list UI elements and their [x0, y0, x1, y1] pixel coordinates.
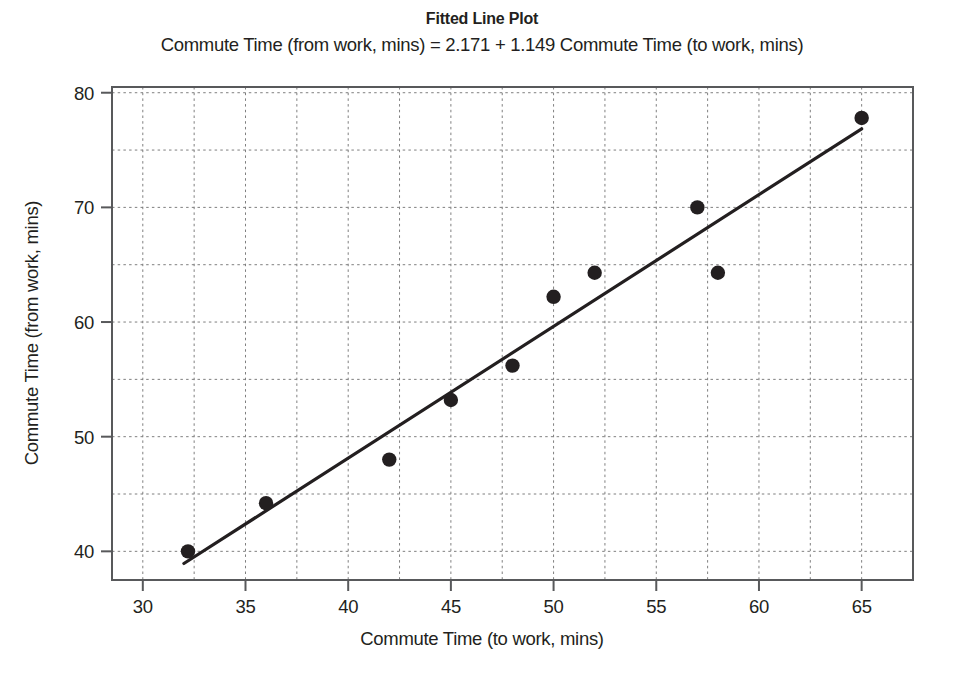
minor-gridlines: [112, 87, 913, 580]
plot-frame: [112, 87, 913, 580]
y-axis-title: Commute Time (from work, mins): [21, 201, 42, 466]
scatter-plot-canvas: 3035404550556065 4050607080 Commute Time…: [0, 0, 964, 675]
data-point-marker: [690, 200, 704, 214]
data-point-marker: [587, 266, 601, 280]
axis-ticks: [101, 93, 862, 591]
x-tick-label: 50: [544, 596, 564, 617]
plot-border: [112, 87, 913, 580]
y-tick-label: 60: [74, 312, 94, 333]
data-point-marker: [711, 266, 725, 280]
x-axis-title: Commute Time (to work, mins): [360, 628, 604, 649]
data-points: [181, 111, 869, 559]
x-tick-label: 35: [236, 596, 256, 617]
y-tick-label: 70: [74, 197, 94, 218]
data-point-marker: [181, 544, 195, 558]
major-gridlines: [112, 87, 913, 580]
x-tick-label: 60: [749, 596, 769, 617]
data-point-marker: [546, 290, 560, 304]
x-axis-tick-labels: 3035404550556065: [133, 596, 872, 617]
x-tick-label: 55: [646, 596, 666, 617]
data-point-marker: [444, 393, 458, 407]
x-tick-label: 65: [852, 596, 872, 617]
data-point-marker: [854, 111, 868, 125]
x-tick-label: 30: [133, 596, 153, 617]
data-point-marker: [259, 496, 273, 510]
fitted-regression-line: [184, 129, 862, 564]
x-tick-label: 40: [338, 596, 358, 617]
y-axis-tick-labels: 4050607080: [74, 83, 94, 563]
regression-line: [184, 129, 862, 564]
data-point-marker: [505, 358, 519, 372]
fitted-line-plot-figure: Fitted Line Plot Commute Time (from work…: [0, 0, 964, 675]
y-tick-label: 80: [74, 83, 94, 104]
x-tick-label: 45: [441, 596, 461, 617]
y-tick-label: 50: [74, 427, 94, 448]
y-tick-label: 40: [74, 541, 94, 562]
data-point-marker: [382, 452, 396, 466]
